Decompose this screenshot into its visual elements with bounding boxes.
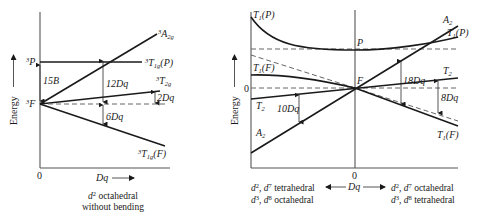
right-caption-right-line2: d3, d8 tetrahedral bbox=[391, 194, 455, 205]
left-energy-label: Energy bbox=[8, 55, 19, 125]
2Dq-label: 2Dq bbox=[157, 92, 174, 103]
left-caption-line1: d2 octahedral bbox=[88, 190, 138, 201]
10Dq-label: 10Dq bbox=[277, 103, 299, 114]
left-panel: Energy 15B 12Dq 2Dq 6Dq 3P 3F 3A2g 3T1g(… bbox=[8, 12, 175, 212]
label-3T1gP: 3T1g(P) bbox=[144, 57, 174, 69]
15B-label: 15B bbox=[43, 75, 59, 86]
6Dq-label: 6Dq bbox=[106, 111, 123, 122]
left-T1P-label: T1(P) bbox=[253, 9, 275, 21]
right-energy-label: Energy bbox=[229, 55, 240, 125]
left-origin-label: 0 bbox=[37, 170, 42, 181]
free-ion-3F-label: 3F bbox=[25, 98, 36, 109]
right-zero-label: 0 bbox=[244, 83, 249, 94]
12Dq-label: 12Dq bbox=[106, 78, 128, 89]
right-panel: Energy 10Dq 18Dq 8Dq 0 P F bbox=[229, 9, 469, 205]
svg-text:Energy: Energy bbox=[8, 96, 19, 125]
free-ion-3P-label: 3P bbox=[25, 56, 35, 67]
right-caption-left-line1: d2, d7 tetrahedral bbox=[251, 182, 315, 193]
right-T2-label: T2 bbox=[443, 65, 453, 77]
right-dq-axis-label: Dq bbox=[347, 181, 360, 192]
18Dq-label: 18Dq bbox=[403, 75, 425, 86]
free-ion-F-label: F bbox=[356, 75, 364, 86]
level-3T1gF-line bbox=[40, 104, 165, 146]
label-3A2g: 3A2g bbox=[157, 28, 175, 40]
left-A2-label: A2 bbox=[255, 127, 266, 139]
free-ion-P-label: P bbox=[356, 37, 363, 48]
right-caption-left-line2: d3, d8 octahedral bbox=[251, 194, 314, 205]
left-T1F-label: T1(F) bbox=[253, 62, 275, 74]
orgel-diagram-figure: Energy 15B 12Dq 2Dq 6Dq 3P 3F 3A2g 3T1g(… bbox=[0, 0, 479, 218]
T1F-curve-left bbox=[251, 75, 355, 88]
right-T1P-label: T1(P) bbox=[447, 27, 469, 39]
left-dq-axis-label: Dq bbox=[95, 172, 108, 183]
8Dq-label: 8Dq bbox=[441, 92, 458, 103]
label-3T2g: 3T2g bbox=[155, 75, 172, 87]
right-caption-right-line1: d2, d7 octahedral bbox=[391, 182, 454, 193]
left-T2-label: T2 bbox=[256, 100, 266, 112]
left-caption-line2: without bending bbox=[82, 202, 144, 212]
right-x-zero-label: 0 bbox=[352, 170, 357, 181]
svg-text:Energy: Energy bbox=[229, 96, 240, 125]
right-T1F-label: T1(F) bbox=[437, 129, 459, 141]
label-3T1gF: 3T1g(F) bbox=[137, 148, 167, 160]
right-A2-label: A2 bbox=[442, 14, 453, 26]
